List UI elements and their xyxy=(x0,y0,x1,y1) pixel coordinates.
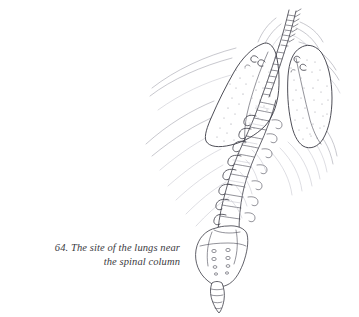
right-lung xyxy=(288,45,332,147)
figure-caption: 64. The site of the lungs near the spina… xyxy=(8,241,180,269)
sacrum xyxy=(196,226,248,287)
cervical-thoracic-spine xyxy=(279,9,301,47)
caption-line-2: the spinal column xyxy=(8,255,180,269)
coccyx xyxy=(211,282,225,314)
anatomical-figure xyxy=(0,0,359,317)
diaphragm-wisps xyxy=(231,150,266,218)
caption-line-1: 64. The site of the lungs near xyxy=(8,241,180,255)
